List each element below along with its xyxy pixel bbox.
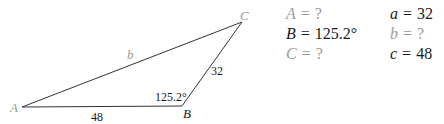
side-a-label: 32	[211, 64, 223, 78]
var-value: 48	[416, 45, 432, 62]
vertex-c-label: C	[240, 8, 249, 23]
given-angle-b: B=125.2°	[286, 24, 357, 44]
var-value: ?	[315, 5, 322, 22]
equals-sign: =	[397, 45, 416, 62]
triangle-abc	[22, 22, 242, 107]
vertex-b-label: B	[183, 106, 191, 121]
given-side-b: b=?	[390, 24, 424, 44]
equals-sign: =	[296, 25, 315, 42]
equals-sign: =	[296, 5, 315, 22]
side-c-label: 48	[91, 110, 103, 124]
var-name: b	[390, 25, 398, 42]
var-value: ?	[316, 45, 323, 62]
given-side-a: a=32	[390, 4, 433, 24]
given-angle-a: A=?	[286, 4, 322, 24]
angle-b-label: 125.2°	[155, 90, 187, 104]
equals-sign: =	[398, 5, 417, 22]
vertex-a-label: A	[9, 100, 18, 115]
var-name: a	[390, 5, 398, 22]
given-angle-c: C=?	[286, 44, 323, 64]
var-value: ?	[417, 25, 424, 42]
equals-sign: =	[398, 25, 417, 42]
equals-sign: =	[297, 45, 316, 62]
given-side-c: c=48	[390, 44, 432, 64]
var-name: B	[286, 25, 296, 42]
side-b-label: b	[127, 47, 134, 62]
triangle-diagram: A B C b 32 48 125.2°	[0, 0, 444, 124]
var-name: C	[286, 45, 297, 62]
var-name: A	[286, 5, 296, 22]
var-value: 125.2°	[315, 25, 357, 42]
var-value: 32	[417, 5, 433, 22]
